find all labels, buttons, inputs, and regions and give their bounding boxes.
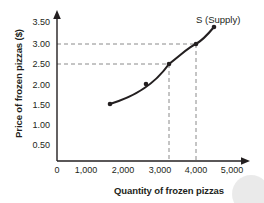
y-tick-label-050: 0.50	[20, 140, 50, 150]
data-point-3500-250	[167, 62, 172, 67]
y-tick-label-150: 1.50	[20, 100, 50, 110]
x-tick-label-1000: 1,000	[66, 165, 106, 175]
y-tick-label-200: 2.00	[20, 80, 50, 90]
x-tick-label-2000: 2,000	[103, 165, 143, 175]
y-axis	[53, 10, 61, 161]
x-tick-label-3000: 3,000	[140, 165, 180, 175]
x-tick-label-4000: 4,000	[176, 165, 216, 175]
data-point-4000-300	[194, 42, 199, 47]
y-tick-label-250: 2.50	[20, 59, 50, 69]
supply-curve-figure: 3.50 3.00 2.50 2.00 1.50 1.00 0.50 0 1,0…	[0, 0, 264, 203]
x-axis	[57, 157, 250, 165]
x-axis-arrowhead	[241, 157, 250, 165]
data-point-1700-150	[108, 102, 113, 107]
x-tick-label-5000: 5,000	[212, 165, 252, 175]
data-point-2700-200	[144, 82, 149, 87]
y-tick-label-100: 1.00	[20, 120, 50, 130]
data-point-4300-350	[212, 25, 217, 30]
y-axis-title: Price of frozen pizzas ($)	[13, 14, 24, 154]
y-tick-label-350: 3.50	[20, 17, 50, 27]
supply-curve-points	[108, 25, 217, 107]
y-tick-label-300: 3.00	[20, 39, 50, 49]
guide-line-price-250	[57, 64, 169, 161]
x-axis-title: Quantity of frozen pizzas	[84, 185, 254, 196]
supply-curve	[110, 27, 214, 104]
y-axis-arrowhead	[53, 10, 61, 19]
guide-line-price-300	[57, 44, 196, 161]
supply-curve-label: S (Supply)	[196, 14, 240, 25]
